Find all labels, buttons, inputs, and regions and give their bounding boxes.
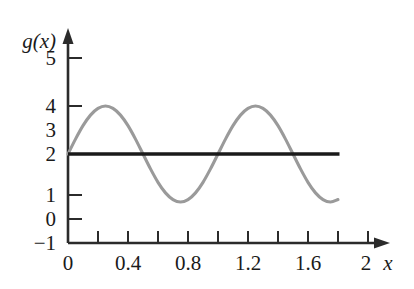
x-axis-ticks xyxy=(98,231,368,243)
y-tick-label-neg1: −1 xyxy=(34,231,56,255)
plot-svg: 5 4 3 2 1 0 −1 0 0.4 0.8 1.2 1.6 2 g(x) … xyxy=(0,0,414,289)
y-tick-label-1: 1 xyxy=(46,183,57,207)
x-axis-label: x xyxy=(382,251,393,275)
y-axis-arrow-icon xyxy=(63,28,74,44)
y-tick-label-2: 2 xyxy=(46,142,57,166)
x-tick-label-0: 0 xyxy=(63,251,74,275)
x-tick-label-12: 1.2 xyxy=(235,251,261,275)
x-axis-arrow-icon xyxy=(374,238,390,249)
y-axis-label: g(x) xyxy=(22,29,56,53)
y-tick-label-4: 4 xyxy=(46,94,57,118)
x-tick-label-16: 1.6 xyxy=(295,251,321,275)
chart-figure: 5 4 3 2 1 0 −1 0 0.4 0.8 1.2 1.6 2 g(x) … xyxy=(0,0,414,289)
x-tick-label-04: 0.4 xyxy=(115,251,142,275)
y-tick-label-3: 3 xyxy=(46,118,57,142)
y-tick-label-0: 0 xyxy=(46,207,57,231)
x-tick-label-2: 2 xyxy=(361,251,372,275)
x-tick-label-08: 0.8 xyxy=(175,251,201,275)
